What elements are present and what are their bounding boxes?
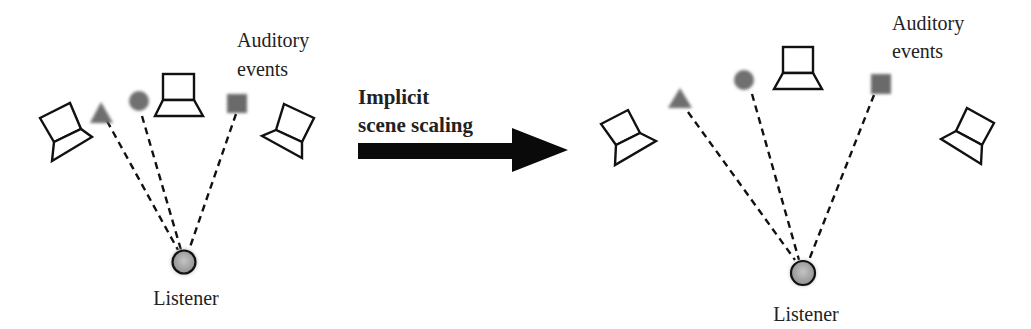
listener-label: Listener — [153, 287, 219, 309]
line-to-square — [189, 114, 236, 250]
line-to-triangle — [688, 112, 795, 260]
line-to-triangle — [107, 121, 178, 250]
scaling-arrow: Implicit scene scaling — [358, 85, 568, 172]
square-event-icon — [871, 74, 891, 94]
right-sight-lines — [688, 94, 874, 260]
arrow-label-line1: Implicit — [358, 85, 429, 109]
listener-icon — [791, 261, 815, 285]
circle-event-icon — [129, 91, 149, 111]
center-speaker-icon — [774, 47, 822, 89]
events-label-line1: Auditory — [892, 12, 964, 35]
center-speaker-icon — [155, 74, 203, 116]
events-label-line2: events — [892, 40, 943, 62]
events-label-line2: events — [237, 58, 288, 80]
left-speaker-icon — [601, 110, 656, 165]
arrow-label-line2: scene scaling — [358, 113, 473, 137]
scene-scaling-diagram: Auditory events Listener Implicit scene … — [0, 0, 1031, 329]
right-scene: Auditory events Listener — [601, 12, 994, 325]
triangle-event-icon — [668, 88, 692, 108]
line-to-square — [809, 95, 874, 260]
listener-icon — [173, 251, 196, 274]
left-scene: Auditory events Listener — [40, 29, 314, 309]
circle-event-icon — [734, 70, 754, 90]
listener-label: Listener — [773, 303, 839, 325]
right-speaker-icon — [262, 104, 314, 158]
triangle-event-icon — [90, 102, 113, 123]
line-to-circle — [142, 116, 181, 250]
left-sight-lines — [107, 114, 236, 250]
events-label-line1: Auditory — [237, 29, 309, 52]
right-speaker-icon — [941, 108, 994, 164]
left-speaker-icon — [40, 103, 92, 161]
line-to-circle — [752, 94, 799, 260]
square-event-icon — [227, 94, 247, 113]
